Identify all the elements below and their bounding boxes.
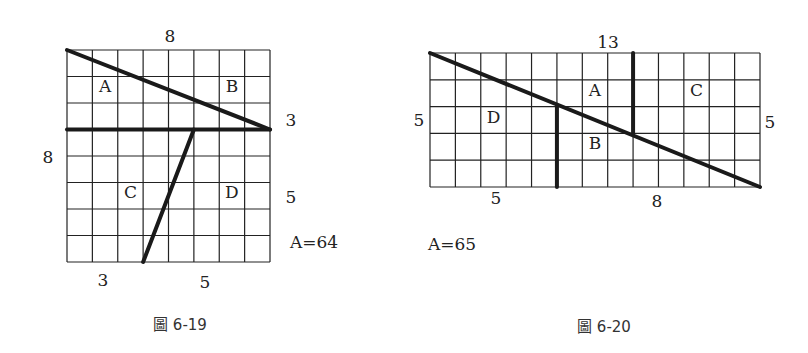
cut-line [430, 53, 760, 187]
cut-lines [430, 53, 760, 187]
dimension-label: 5 [200, 272, 211, 292]
region-label-a: A [98, 76, 112, 96]
region-label-a: A [588, 80, 602, 100]
grid-8x8 [67, 50, 270, 262]
dimension-label: 8 [652, 191, 663, 211]
dimension-label: 3 [98, 270, 109, 290]
dimension-label: 5 [491, 188, 502, 208]
region-label-b: B [589, 133, 602, 153]
diagram-canvas: ABCD 883535 A=64 圖 6-19 ABCD 135558 A=65… [0, 0, 808, 353]
figure-caption: 圖 6-20 [577, 318, 631, 336]
region-label-c: C [690, 80, 703, 100]
figure-6-20: ABCD 135558 A=65 圖 6-20 [414, 32, 776, 336]
dimension-label: 5 [286, 187, 297, 207]
area-label: A=64 [289, 232, 338, 252]
dimension-label: 3 [286, 110, 297, 130]
dimension-label: 8 [165, 26, 176, 46]
dimension-label: 13 [597, 32, 619, 52]
dimension-label: 8 [43, 147, 54, 167]
dimension-label: 5 [414, 110, 425, 130]
region-label-d: D [487, 107, 501, 127]
region-label-d: D [225, 182, 239, 202]
dimension-label: 5 [765, 112, 776, 132]
region-label-b: B [226, 76, 239, 96]
region-label-c: C [124, 182, 137, 202]
dimension-labels: 883535 [43, 26, 297, 292]
area-label: A=65 [427, 234, 476, 254]
figure-caption: 圖 6-19 [153, 316, 207, 334]
figure-6-19: ABCD 883535 A=64 圖 6-19 [43, 26, 339, 334]
